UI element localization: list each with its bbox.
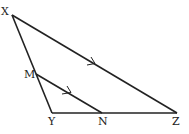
segment-xy xyxy=(12,15,52,113)
vertex-label-x: X xyxy=(1,5,9,18)
vertex-label-y: Y xyxy=(47,115,56,128)
segment-mn xyxy=(36,74,102,113)
vertex-label-z: Z xyxy=(172,115,180,128)
vertex-label-n: N xyxy=(98,115,108,128)
vertex-label-m: M xyxy=(24,68,35,81)
triangle-diagram: X M Y N Z xyxy=(0,0,189,134)
